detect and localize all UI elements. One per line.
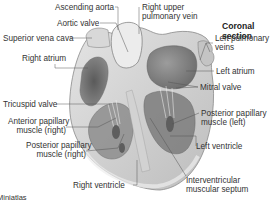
label-right-atrium: Right atrium — [22, 54, 66, 63]
left-atrium-cavity — [147, 46, 197, 89]
heart-coronal-section-diagram: Coronal section Ascending aorta Aortic v… — [0, 0, 278, 202]
label-superior-vena-cava: Superior vena cava — [3, 34, 74, 43]
label-right-upper-pulmonary-vein-line1: Right upper — [142, 3, 184, 12]
label-interventricular-septum-line1: Interventricular — [186, 176, 240, 185]
label-right-ventricle: Right ventricle — [73, 181, 125, 190]
label-aortic-valve: Aortic valve — [57, 19, 99, 28]
label-left-ventricle: Left ventricle — [196, 142, 242, 151]
label-right-upper-pulmonary-vein-line2: pulmonary vein — [142, 12, 198, 21]
label-posterior-papillary-right-line1: Posterior papillary — [26, 141, 86, 150]
label-posterior-papillary-left-line2: muscle (left) — [201, 118, 246, 127]
label-posterior-papillary-right-line2: muscle (right) — [26, 150, 86, 159]
label-anterior-papillary-right-line2: muscle (right) — [8, 126, 66, 135]
label-left-pulmonary-veins-line2: veins — [215, 43, 234, 52]
label-interventricular-septum-line2: muscular septum — [186, 185, 248, 194]
credit-text: Miniatlas — [0, 193, 27, 202]
label-posterior-papillary-left-line1: Posterior papillary — [201, 109, 267, 118]
label-left-atrium: Left atrium — [216, 67, 255, 76]
label-tricuspid-valve: Tricuspid valve — [3, 100, 57, 109]
ascending-aorta-shape — [111, 22, 142, 68]
label-anterior-papillary-right-line1: Anterior papillary — [8, 117, 66, 126]
label-left-pulmonary-veins-line1: Left pulmonary — [215, 34, 269, 43]
label-ascending-aorta: Ascending aorta — [55, 3, 114, 12]
label-mitral-valve: Mitral valve — [200, 83, 241, 92]
